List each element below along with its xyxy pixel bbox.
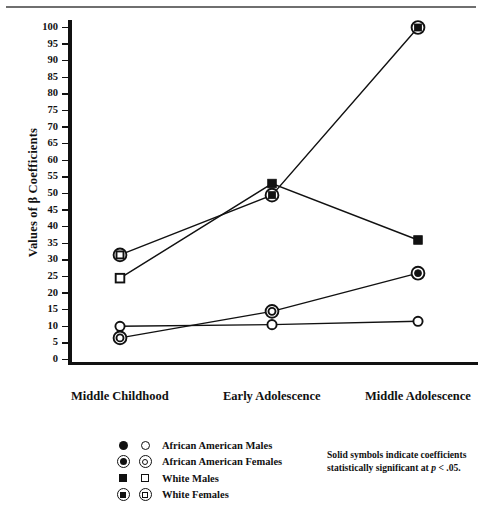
series-line — [120, 28, 418, 255]
data-point-marker — [267, 320, 276, 329]
data-point-marker — [115, 322, 124, 331]
data-point-marker — [114, 249, 127, 262]
legend: African American MalesAfrican American F… — [112, 437, 322, 503]
legend-item: White Males — [112, 470, 322, 487]
legend-item-label: White Females — [156, 489, 229, 500]
note-line-2-pre: statistically significant at — [327, 462, 431, 473]
data-point-marker — [114, 332, 127, 345]
data-point-marker — [266, 189, 279, 202]
filled-square-icon — [112, 474, 134, 482]
x-axis-label: Middle Childhood — [71, 389, 169, 404]
x-axis-label: Early Adolescence — [223, 389, 321, 404]
legend-item-label: African American Females — [156, 456, 282, 467]
open-square-icon — [134, 474, 156, 482]
legend-item: African American Males — [112, 437, 322, 454]
open-circle-icon — [134, 441, 156, 450]
filled-circle-in-circle-icon — [112, 455, 134, 468]
data-point-marker — [266, 305, 279, 318]
data-point-marker — [268, 179, 277, 188]
open-circle-in-circle-icon — [134, 455, 156, 468]
note-line-2-post: < .05. — [436, 462, 461, 473]
data-point-marker — [116, 274, 125, 283]
figure-container: Values of β Coefficients 100959085807570… — [0, 0, 481, 508]
legend-item: African American Females — [112, 454, 322, 471]
filled-circle-icon — [112, 441, 134, 450]
data-point-marker — [413, 317, 422, 326]
x-axis-label: Middle Adolescence — [365, 389, 471, 404]
data-point-marker — [414, 236, 423, 245]
legend-item-label: African American Males — [156, 440, 272, 451]
note-line-1: Solid symbols indicate coefficients — [327, 449, 466, 460]
legend-item-label: White Males — [156, 473, 219, 484]
legend-item: White Females — [112, 487, 322, 504]
significance-note: Solid symbols indicate coefficients stat… — [327, 448, 477, 474]
data-point-marker — [412, 267, 425, 280]
filled-square-in-circle-icon — [112, 488, 134, 501]
data-series-layer — [0, 0, 481, 508]
open-square-in-circle-icon — [134, 488, 156, 501]
data-point-marker — [412, 21, 425, 34]
